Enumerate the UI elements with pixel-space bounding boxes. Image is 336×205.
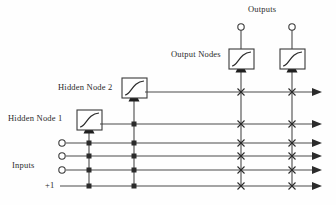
- connection-dot: [87, 154, 92, 159]
- connection-dot: [87, 184, 92, 189]
- connection-dot: [87, 141, 92, 146]
- connection-dot: [87, 168, 92, 173]
- diagram-canvas: Hidden Node 1 Hidden Node 2 Output Nodes…: [0, 0, 336, 205]
- label-hidden-node-1: Hidden Node 1: [8, 113, 63, 123]
- input-terminals[interactable]: [59, 140, 65, 173]
- label-hidden-node-2: Hidden Node 2: [58, 82, 113, 92]
- output-node-1[interactable]: [229, 24, 254, 69]
- label-inputs: Inputs: [12, 160, 34, 170]
- input-terminal-3[interactable]: [59, 167, 65, 173]
- output-terminal-1[interactable]: [238, 24, 244, 30]
- input-terminal-1[interactable]: [59, 140, 65, 146]
- input-terminal-2[interactable]: [59, 153, 65, 159]
- network-diagram: [0, 0, 336, 205]
- output-node-2[interactable]: [280, 24, 305, 69]
- connection-dot: [132, 154, 137, 159]
- crossing-marks: [238, 89, 296, 190]
- connection-dot: [132, 141, 137, 146]
- connection-dot: [132, 168, 137, 173]
- hidden-node-1[interactable]: [77, 110, 102, 130]
- connection-dot: [132, 184, 137, 189]
- label-bias: +1: [45, 180, 54, 190]
- label-outputs: Outputs: [248, 4, 276, 14]
- connection-dots: [87, 122, 137, 189]
- hidden-node-2[interactable]: [122, 78, 147, 98]
- output-terminal-2[interactable]: [289, 24, 295, 30]
- label-output-nodes: Output Nodes: [171, 49, 221, 59]
- bus-lines: [60, 92, 312, 186]
- connection-dot: [132, 122, 137, 127]
- node-feed-arrowheads: [84, 62, 298, 134]
